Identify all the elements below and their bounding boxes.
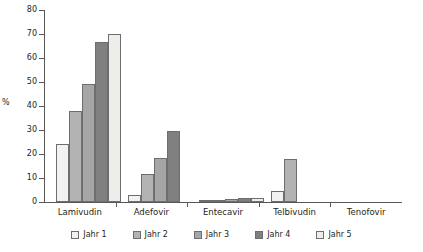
bar-group-tenofovir xyxy=(330,10,402,202)
bar-group-bars xyxy=(342,10,407,202)
bar-group-bars xyxy=(199,10,264,202)
y-tick-label: 10 xyxy=(27,172,37,183)
bar-telbivudin-jahr-2 xyxy=(284,159,297,202)
bar-group-entecavir xyxy=(187,10,259,202)
bar-lamivudin-jahr-4 xyxy=(95,42,108,202)
y-tick-0: 0 xyxy=(0,202,44,203)
legend-swatch-icon xyxy=(71,231,79,239)
y-tick-20: 20 xyxy=(0,154,44,155)
y-tick-mark xyxy=(39,202,44,203)
chart-legend: Jahr 1Jahr 2Jahr 3Jahr 4Jahr 5 xyxy=(0,230,423,240)
legend-label: Jahr 4 xyxy=(267,230,290,240)
legend-label: Jahr 1 xyxy=(83,230,106,240)
legend-item-jahr-2[interactable]: Jahr 2 xyxy=(133,230,168,240)
bar-group-bars xyxy=(128,10,193,202)
bar-group-bars xyxy=(271,10,336,202)
legend-item-jahr-1[interactable]: Jahr 1 xyxy=(71,230,106,240)
y-tick-label: 0 xyxy=(32,196,37,207)
bar-group-lamivudin xyxy=(44,10,116,202)
bar-entecavir-jahr-2 xyxy=(212,200,225,202)
bar-lamivudin-jahr-1 xyxy=(56,144,69,202)
y-tick-50: 50 xyxy=(0,82,44,83)
bar-adefovir-jahr-4 xyxy=(167,131,180,202)
x-axis-line xyxy=(44,202,402,203)
legend-label: Jahr 2 xyxy=(145,230,168,240)
y-tick-70: 70 xyxy=(0,34,44,35)
legend-label: Jahr 5 xyxy=(328,230,351,240)
bar-lamivudin-jahr-3 xyxy=(82,84,95,202)
bar-lamivudin-jahr-2 xyxy=(69,111,82,202)
y-tick-label: 60 xyxy=(27,52,37,63)
y-tick-40: 40 xyxy=(0,106,44,107)
legend-swatch-icon xyxy=(133,231,141,239)
legend-swatch-icon xyxy=(255,231,263,239)
legend-swatch-icon xyxy=(316,231,324,239)
bar-entecavir-jahr-4 xyxy=(238,198,251,202)
bar-group-bars xyxy=(56,10,121,202)
bar-telbivudin-jahr-1 xyxy=(271,191,284,202)
legend-item-jahr-5[interactable]: Jahr 5 xyxy=(316,230,351,240)
y-tick-label: 70 xyxy=(27,28,37,39)
bar-group-telbivudin xyxy=(259,10,331,202)
bar-entecavir-jahr-1 xyxy=(199,200,212,202)
bar-adefovir-jahr-3 xyxy=(154,158,167,202)
legend-item-jahr-4[interactable]: Jahr 4 xyxy=(255,230,290,240)
x-axis-label-adefovir: Adefovir xyxy=(116,206,188,218)
x-axis-label-entecavir: Entecavir xyxy=(187,206,259,218)
legend-swatch-icon xyxy=(194,231,202,239)
y-tick-label: 20 xyxy=(27,148,37,159)
bar-adefovir-jahr-2 xyxy=(141,174,154,202)
bar-adefovir-jahr-1 xyxy=(128,195,141,202)
y-tick-label: 30 xyxy=(27,124,37,135)
y-tick-80: 80 xyxy=(0,10,44,11)
y-tick-label: 50 xyxy=(27,76,37,87)
y-tick-label: 80 xyxy=(27,4,37,15)
y-tick-label: 40 xyxy=(27,100,37,111)
y-tick-10: 10 xyxy=(0,178,44,179)
x-axis-label-lamivudin: Lamivudin xyxy=(44,206,116,218)
legend-label: Jahr 3 xyxy=(206,230,229,240)
y-tick-30: 30 xyxy=(0,130,44,131)
plot-area xyxy=(44,10,402,202)
bar-chart: % 01020304050607080 LamivudinAdefovirEnt… xyxy=(0,0,423,252)
bar-entecavir-jahr-3 xyxy=(225,199,238,202)
y-tick-60: 60 xyxy=(0,58,44,59)
x-axis-label-tenofovir: Tenofovir xyxy=(330,206,402,218)
legend-item-jahr-3[interactable]: Jahr 3 xyxy=(194,230,229,240)
x-axis-label-telbivudin: Telbivudin xyxy=(259,206,331,218)
bar-group-adefovir xyxy=(116,10,188,202)
